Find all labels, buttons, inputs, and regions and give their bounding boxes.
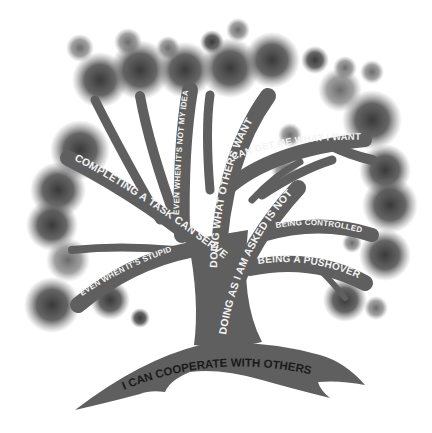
tree-diagram: COMPLETING A TASK CAN SERVE ME EVEN WHEN… — [0, 0, 432, 433]
